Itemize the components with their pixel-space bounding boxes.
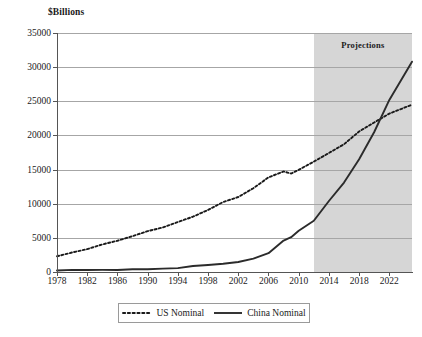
y-axis-tick bbox=[53, 33, 57, 34]
y-axis-tick bbox=[53, 238, 57, 239]
x-axis-tick-label: 1990 bbox=[138, 276, 157, 286]
y-axis-line bbox=[57, 33, 58, 273]
solid-line-swatch-icon bbox=[213, 309, 243, 317]
legend: US Nominal China Nominal bbox=[118, 303, 310, 323]
gdp-projection-chart: $Billions 050001000015000200002500030000… bbox=[0, 0, 422, 337]
x-axis-tick-label: 2006 bbox=[259, 276, 278, 286]
y-axis-tick bbox=[53, 101, 57, 102]
x-axis-tick-label: 1994 bbox=[168, 276, 187, 286]
x-axis-tick-label: 2002 bbox=[229, 276, 248, 286]
plot-area: Projections bbox=[57, 33, 412, 272]
y-axis-tick bbox=[53, 170, 57, 171]
y-axis-tick bbox=[53, 135, 57, 136]
x-axis-tick-label: 2022 bbox=[380, 276, 399, 286]
legend-item-us-nominal: US Nominal bbox=[122, 308, 204, 318]
y-axis-tick-label: 10000 bbox=[27, 199, 51, 209]
y-axis-tick-label: 25000 bbox=[27, 96, 51, 106]
x-axis-tick-label: 1998 bbox=[199, 276, 218, 286]
x-axis-tick-labels: 1978198219861990199419982002200620102014… bbox=[57, 276, 413, 290]
x-axis-tick-label: 2018 bbox=[350, 276, 369, 286]
y-axis-tick-label: 35000 bbox=[27, 28, 51, 38]
y-axis-tick-label: 20000 bbox=[27, 130, 51, 140]
x-axis-tick-label: 1978 bbox=[48, 276, 67, 286]
x-axis-tick-label: 2010 bbox=[289, 276, 308, 286]
series-line-china-nominal bbox=[57, 62, 412, 271]
y-axis-tick-label: 5000 bbox=[32, 233, 51, 243]
legend-item-china-nominal: China Nominal bbox=[213, 308, 305, 318]
dotted-line-swatch-icon bbox=[122, 309, 152, 317]
x-axis-tick-label: 2014 bbox=[319, 276, 338, 286]
series-line-us-nominal bbox=[57, 105, 412, 257]
y-axis-tick-labels: 05000100001500020000250003000035000 bbox=[0, 33, 51, 272]
y-axis-tick-label: 30000 bbox=[27, 62, 51, 72]
y-axis-title: $Billions bbox=[48, 7, 84, 17]
x-axis-tick-label: 1986 bbox=[108, 276, 127, 286]
x-axis-tick-label: 1982 bbox=[78, 276, 97, 286]
legend-label-us-nominal: US Nominal bbox=[156, 308, 204, 318]
series-lines bbox=[57, 33, 412, 272]
y-axis-tick bbox=[53, 67, 57, 68]
y-axis-tick bbox=[53, 204, 57, 205]
legend-label-china-nominal: China Nominal bbox=[247, 308, 305, 318]
y-axis-tick-label: 15000 bbox=[27, 165, 51, 175]
